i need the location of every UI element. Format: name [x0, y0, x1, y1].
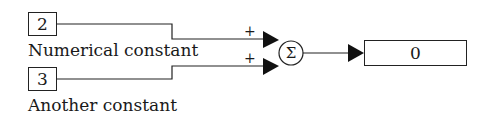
plus-sign-2: +	[244, 51, 256, 65]
constant-block-1[interactable]: 2	[28, 12, 57, 36]
constant-value-1: 2	[37, 14, 48, 34]
display-block[interactable]: 0	[364, 40, 467, 66]
arrow-head-2	[263, 58, 279, 75]
arrow-head-1	[263, 31, 279, 48]
arrow-head-output	[348, 44, 364, 62]
plus-sign-1: +	[244, 24, 256, 38]
constant-label-1: Numerical constant	[28, 42, 198, 59]
constant-value-2: 3	[37, 69, 48, 89]
sum-icon[interactable]: Σ	[279, 42, 303, 64]
signal-line-1	[57, 24, 270, 39]
display-value: 0	[410, 43, 421, 63]
signal-line-2	[57, 66, 270, 79]
constant-label-2: Another constant	[28, 97, 177, 114]
constant-block-2[interactable]: 3	[28, 67, 57, 91]
